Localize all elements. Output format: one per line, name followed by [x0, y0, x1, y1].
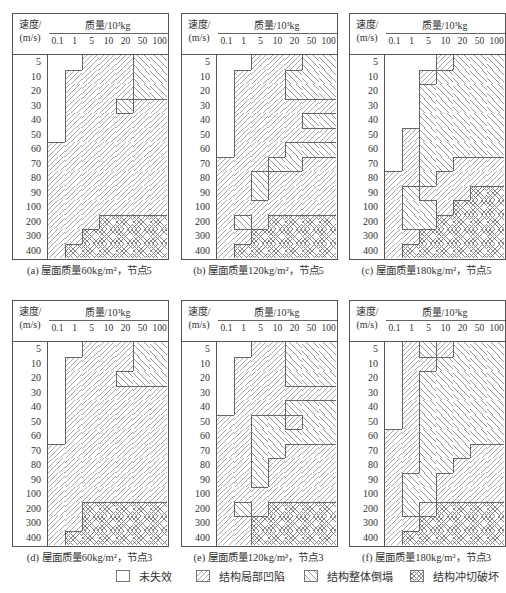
region-border [436, 502, 437, 517]
region-border [251, 487, 268, 488]
cell-state-2 [302, 371, 319, 386]
region-border [470, 502, 487, 503]
velocity-tick: 30 [13, 99, 47, 114]
legend: 未失效 结构局部凹陷 结构整体倒塌 结构冲切破坏 [0, 568, 506, 588]
cell-state-1 [402, 444, 419, 459]
cell-state-1 [302, 157, 319, 172]
mass-axis-label: 质量/10³kg [47, 304, 168, 319]
cell-state-1 [65, 99, 82, 114]
cell-state-2 [402, 200, 419, 215]
cell-state-2 [436, 357, 453, 372]
failure-mode-table: 速度/(m/s)质量/10³kg0.1151020501005102030405… [349, 300, 506, 547]
cell-state-2 [302, 415, 319, 430]
cell-state-1 [217, 516, 234, 531]
region-border [251, 473, 252, 488]
region-border [285, 444, 286, 459]
cell-state-0 [402, 84, 419, 99]
region-border [217, 415, 234, 416]
region-border [251, 415, 252, 430]
cell-state-1 [436, 186, 453, 201]
region-border [319, 128, 336, 129]
velocity-tick: 20 [182, 371, 216, 386]
cell-state-2 [487, 400, 504, 415]
cell-state-0 [217, 84, 234, 99]
region-border [419, 516, 420, 531]
cell-state-1 [217, 444, 234, 459]
cell-state-1 [319, 473, 336, 488]
region-border [319, 99, 336, 100]
cell-state-2 [285, 157, 302, 172]
cell-state-3 [285, 516, 302, 531]
region-border [65, 371, 66, 386]
cell-state-1 [150, 171, 167, 186]
region-border [319, 113, 336, 114]
cell-state-1 [251, 487, 268, 502]
cell-state-2 [133, 84, 150, 99]
velocity-axis-label: 速度/(m/s) [350, 14, 384, 54]
region-border [234, 357, 235, 372]
cell-state-2 [419, 142, 436, 157]
cell-state-1 [402, 386, 419, 401]
cell-state-1 [234, 429, 251, 444]
region-border [419, 171, 420, 186]
region-border [402, 400, 403, 415]
cell-state-3 [268, 516, 285, 531]
velocity-tick: 40 [13, 113, 47, 128]
region-border [402, 128, 419, 129]
cell-state-2 [319, 342, 336, 357]
region-border [487, 502, 504, 503]
region-border [285, 215, 302, 216]
region-border [419, 70, 420, 85]
cell-state-3 [99, 229, 116, 244]
region-border [402, 531, 419, 532]
cell-state-1 [65, 444, 82, 459]
cell-state-1 [234, 200, 251, 215]
cell-state-1 [234, 400, 251, 415]
cell-state-1 [402, 142, 419, 157]
cell-state-0 [48, 113, 65, 128]
cell-state-3 [402, 531, 419, 546]
cell-state-1 [65, 113, 82, 128]
cell-state-1 [268, 186, 285, 201]
cell-state-1 [133, 458, 150, 473]
cell-state-2 [150, 357, 167, 372]
velocity-tick: 70 [350, 157, 384, 172]
mass-tick: 20 [117, 36, 134, 46]
cell-state-2 [419, 371, 436, 386]
velocity-tick: 400 [350, 244, 384, 259]
region-border [419, 186, 436, 187]
velocity-tick: 20 [350, 84, 384, 99]
velocity-tick: 30 [182, 386, 216, 401]
failure-grid [48, 342, 167, 545]
cell-state-2 [436, 99, 453, 114]
cell-state-1 [285, 171, 302, 186]
mass-axis-label: 质量/10³kg [384, 17, 505, 32]
failure-mode-table: 速度/(m/s)质量/10³kg0.1151020501005102030405… [181, 300, 338, 547]
mass-tick: 1 [235, 36, 252, 46]
cell-state-1 [116, 386, 133, 401]
cell-state-3 [82, 229, 99, 244]
region-border [402, 229, 419, 230]
cell-state-1 [133, 186, 150, 201]
cell-state-1 [48, 229, 65, 244]
mass-tick: 100 [488, 323, 505, 333]
cell-state-3 [65, 531, 82, 546]
cell-state-1 [402, 516, 419, 531]
cell-state-2 [487, 113, 504, 128]
cell-state-3 [82, 244, 99, 259]
failure-mode-table: 速度/(m/s)质量/10³kg0.1151020501005102030405… [181, 13, 338, 260]
cell-state-2 [436, 386, 453, 401]
velocity-tick: 50 [350, 415, 384, 430]
region-border [251, 502, 252, 517]
region-border [234, 99, 235, 114]
velocity-tick: 80 [13, 458, 47, 473]
mass-tick: 100 [320, 323, 337, 333]
cell-state-2 [268, 157, 285, 172]
cell-state-1 [487, 473, 504, 488]
cell-state-1 [234, 386, 251, 401]
region-border [402, 531, 403, 546]
region-border [302, 142, 319, 143]
cell-state-1 [268, 357, 285, 372]
cell-state-3 [319, 244, 336, 259]
cell-state-3 [470, 244, 487, 259]
